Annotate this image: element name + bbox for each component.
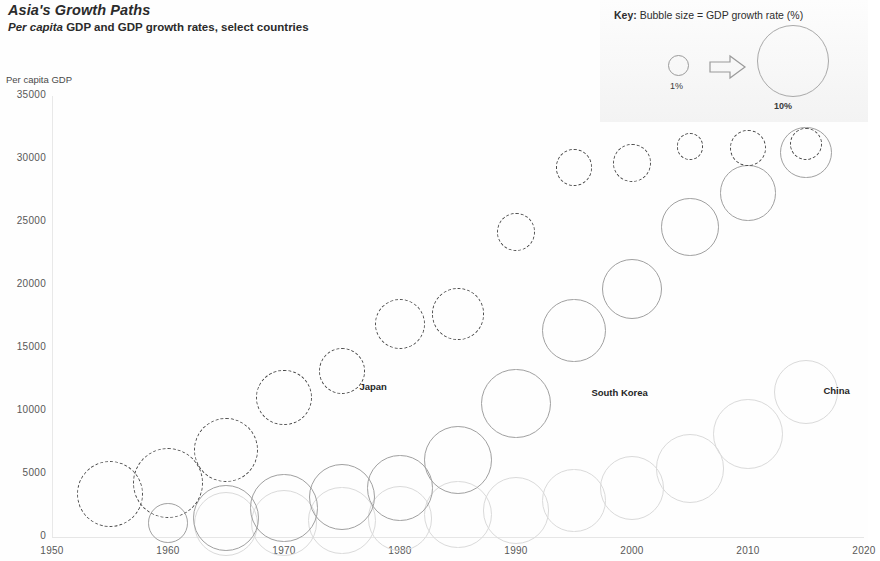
x-axis-tick-label: 2000 [606,545,658,556]
bubble-south-korea-1980[interactable] [367,455,432,520]
series-label-japan: Japan [359,381,386,392]
y-axis-tick-label: 5000 [0,467,46,478]
y-axis-tick-label: 25000 [0,215,46,226]
bubble-japan-2015[interactable] [790,128,822,160]
bubble-south-korea-1975[interactable] [309,464,375,530]
y-axis-tick-label: 10000 [0,404,46,415]
bubble-south-korea-2005[interactable] [661,198,719,256]
bubble-south-korea-1985[interactable] [424,426,492,494]
bubble-china-1995[interactable] [542,469,605,532]
y-axis-tick-label: 20000 [0,278,46,289]
bubble-japan-2010[interactable] [730,130,766,166]
bubble-south-korea-1970[interactable] [250,474,317,541]
bubble-japan-1990[interactable] [497,213,535,251]
bubble-japan-1965[interactable] [194,418,258,482]
y-axis-tick-label: 35000 [0,89,46,100]
bubble-japan-1960[interactable] [133,448,203,518]
y-axis-tick-label: 30000 [0,152,46,163]
bubble-japan-1975[interactable] [319,348,365,394]
x-axis-tick-label: 1990 [490,545,542,556]
x-axis-tick-label: 1960 [142,545,194,556]
bubble-south-korea-2010[interactable] [720,165,775,220]
series-label-china: China [823,385,849,396]
y-axis-tick-label: 0 [0,530,46,541]
bubble-south-korea-1965[interactable] [193,485,259,551]
bubble-japan-1985[interactable] [432,288,483,339]
series-label-south-korea: South Korea [591,387,647,398]
x-axis-tick-label: 2020 [838,545,880,556]
bubble-south-korea-1990[interactable] [481,369,551,439]
bubble-japan-1980[interactable] [375,299,425,349]
y-axis-tick-label: 15000 [0,341,46,352]
bubble-south-korea-2000[interactable] [602,259,662,319]
bubble-japan-2000[interactable] [613,144,651,182]
bubble-japan-1995[interactable] [556,149,593,186]
bubble-china-1990[interactable] [483,477,550,544]
bubble-japan-1955[interactable] [77,461,143,527]
bubble-japan-2005[interactable] [677,133,703,159]
x-axis-tick-label: 1950 [26,545,78,556]
y-axis-line [52,96,53,537]
bubble-south-korea-1995[interactable] [542,299,606,363]
bubble-china-2000[interactable] [600,456,664,520]
bubble-japan-1970[interactable] [256,370,311,425]
bubble-china-2010[interactable] [713,399,783,469]
x-axis-tick-label: 2010 [722,545,774,556]
